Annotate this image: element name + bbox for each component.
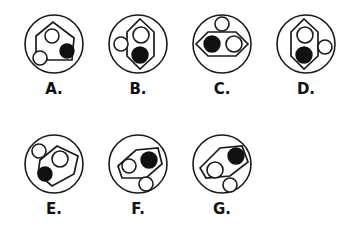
- white-dot-inside-right: [226, 36, 242, 52]
- white-dot-outside-lower-right: [139, 177, 153, 191]
- white-dot-outside-left: [114, 37, 128, 51]
- white-dot-outside-right: [318, 40, 332, 54]
- white-dot-outside-lower-left: [33, 51, 47, 65]
- white-dot-inside-upper-right: [52, 151, 68, 167]
- white-dot-inside-left: [122, 159, 136, 173]
- black-dot-inside-lower-right: [60, 44, 74, 58]
- figure-b[interactable]: B.: [96, 6, 180, 106]
- figure-a-drawing: [12, 6, 96, 82]
- figure-f-drawing: [96, 126, 180, 202]
- black-dot-inside-lower: [296, 47, 312, 63]
- figure-label-f: F.: [96, 200, 180, 218]
- black-dot-inside-left: [204, 36, 220, 52]
- white-dot-inside-left: [207, 162, 223, 178]
- figure-g-drawing: [180, 126, 264, 202]
- figure-b-drawing: [96, 6, 180, 82]
- figure-label-b: B.: [96, 80, 180, 98]
- figure-c[interactable]: C.: [180, 6, 264, 106]
- figure-d-drawing: [264, 6, 348, 82]
- black-dot-inside-lower: [132, 47, 148, 63]
- figure-label-a: A.: [12, 80, 96, 98]
- black-dot-inside-lower-left: [38, 167, 52, 181]
- figure-e[interactable]: E.: [12, 126, 96, 226]
- figure-e-drawing: [12, 126, 96, 202]
- white-dot-outside-top: [215, 17, 229, 31]
- white-dot-outside-upper-left: [32, 144, 46, 158]
- figure-board: A.B.C.D.E.F.G.: [0, 0, 356, 243]
- figure-g[interactable]: G.: [180, 126, 264, 226]
- figure-label-c: C.: [180, 80, 264, 98]
- white-dot-inside-upper: [133, 27, 149, 43]
- white-dot-outside-lower-right: [223, 178, 237, 192]
- figure-label-e: E.: [12, 200, 96, 218]
- figure-a[interactable]: A.: [12, 6, 96, 106]
- figure-label-d: D.: [264, 80, 348, 98]
- figure-d[interactable]: D.: [264, 6, 348, 106]
- black-dot-inside-right: [141, 152, 157, 168]
- white-dot-inside-upper: [297, 27, 313, 43]
- black-dot-inside-upper-right: [228, 148, 244, 164]
- figure-label-g: G.: [180, 200, 264, 218]
- white-dot-inside-upper: [45, 29, 59, 43]
- figure-c-drawing: [180, 6, 264, 82]
- figure-f[interactable]: F.: [96, 126, 180, 226]
